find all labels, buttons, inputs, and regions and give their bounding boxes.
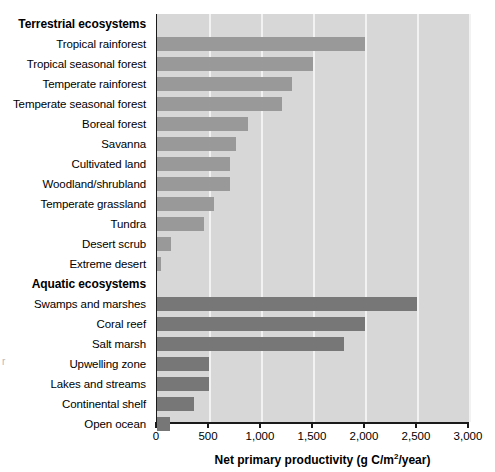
bar-row-coral-reef (157, 314, 469, 334)
x-tick-2000 (363, 422, 365, 428)
bar-desert-scrub (157, 237, 171, 251)
category-label-cultivated-land: Cultivated land (0, 154, 152, 174)
x-tick-500 (207, 422, 209, 428)
x-tick-label-500: 500 (198, 430, 217, 442)
bar-row-upwelling-zone (157, 354, 469, 374)
bar-cultivated-land (157, 157, 230, 171)
bar-salt-marsh (157, 337, 344, 351)
bar-temperate-rainforest (157, 77, 292, 91)
group-heading-row-aquatic-ecosystems (157, 274, 469, 294)
category-label-continental-shelf: Continental shelf (0, 394, 152, 414)
bar-continental-shelf (157, 397, 194, 411)
gridline-3000 (469, 14, 471, 422)
category-label-lakes-and-streams: Lakes and streams (0, 374, 152, 394)
category-label-savanna: Savanna (0, 134, 152, 154)
bar-tropical-rainforest (157, 37, 365, 51)
category-label-temperate-rainforest: Temperate rainforest (0, 74, 152, 94)
bar-row-tropical-seasonal-forest (157, 54, 469, 74)
category-label-column: Terrestrial ecosystemsTropical rainfores… (0, 14, 152, 434)
bar-row-temperate-grassland (157, 194, 469, 214)
x-tick-3000 (467, 422, 469, 428)
bar-row-desert-scrub (157, 234, 469, 254)
category-label-salt-marsh: Salt marsh (0, 334, 152, 354)
x-tick-label-1000: 1,000 (246, 430, 275, 442)
category-label-temperate-seasonal-forest: Temperate seasonal forest (0, 94, 152, 114)
x-tick-label-2000: 2,000 (350, 430, 379, 442)
x-tick-2500 (415, 422, 417, 428)
plot-area (156, 14, 469, 422)
category-label-open-ocean: Open ocean (0, 414, 152, 434)
bar-boreal-forest (157, 117, 248, 131)
bar-row-swamps-and-marshes (157, 294, 469, 314)
bar-coral-reef (157, 317, 365, 331)
x-tick-label-1500: 1,500 (298, 430, 327, 442)
x-axis-title: Net primary productivity (g C/m2/year) (0, 452, 495, 467)
bar-temperate-seasonal-forest (157, 97, 282, 111)
bar-row-woodland-shrubland (157, 174, 469, 194)
x-tick-label-0: 0 (153, 430, 159, 442)
bar-row-temperate-rainforest (157, 74, 469, 94)
bar-savanna (157, 137, 236, 151)
bar-row-salt-marsh (157, 334, 469, 354)
margin-artifact: r (2, 356, 5, 367)
bar-lakes-and-streams (157, 377, 209, 391)
bar-row-tundra (157, 214, 469, 234)
category-label-boreal-forest: Boreal forest (0, 114, 152, 134)
category-label-tundra: Tundra (0, 214, 152, 234)
group-heading-row-terrestrial-ecosystems (157, 14, 469, 34)
bar-woodland-shrubland (157, 177, 230, 191)
x-tick-1500 (311, 422, 313, 428)
group-heading-terrestrial-ecosystems: Terrestrial ecosystems (0, 14, 152, 34)
bar-swamps-and-marshes (157, 297, 417, 311)
category-label-coral-reef: Coral reef (0, 314, 152, 334)
bar-extreme-desert (157, 257, 161, 271)
category-label-extreme-desert: Extreme desert (0, 254, 152, 274)
category-label-temperate-grassland: Temperate grassland (0, 194, 152, 214)
bar-temperate-grassland (157, 197, 214, 211)
bar-row-cultivated-land (157, 154, 469, 174)
group-heading-aquatic-ecosystems: Aquatic ecosystems (0, 274, 152, 294)
category-label-swamps-and-marshes: Swamps and marshes (0, 294, 152, 314)
bar-row-boreal-forest (157, 114, 469, 134)
x-tick-label-2500: 2,500 (402, 430, 431, 442)
npp-bar-chart: Terrestrial ecosystemsTropical rainfores… (0, 0, 495, 472)
bar-row-savanna (157, 134, 469, 154)
bar-row-extreme-desert (157, 254, 469, 274)
category-label-tropical-seasonal-forest: Tropical seasonal forest (0, 54, 152, 74)
axis-title-superscript: 2 (394, 452, 398, 461)
bar-tropical-seasonal-forest (157, 57, 313, 71)
bar-upwelling-zone (157, 357, 209, 371)
bar-row-tropical-rainforest (157, 34, 469, 54)
x-tick-1000 (259, 422, 261, 428)
category-label-desert-scrub: Desert scrub (0, 234, 152, 254)
bar-row-temperate-seasonal-forest (157, 94, 469, 114)
category-label-tropical-rainforest: Tropical rainforest (0, 34, 152, 54)
x-tick-label-3000: 3,000 (454, 430, 483, 442)
bar-row-continental-shelf (157, 394, 469, 414)
category-label-woodland-shrubland: Woodland/shrubland (0, 174, 152, 194)
bar-row-lakes-and-streams (157, 374, 469, 394)
category-label-upwelling-zone: Upwelling zone (0, 354, 152, 374)
bar-open-ocean (157, 417, 170, 431)
bar-tundra (157, 217, 204, 231)
